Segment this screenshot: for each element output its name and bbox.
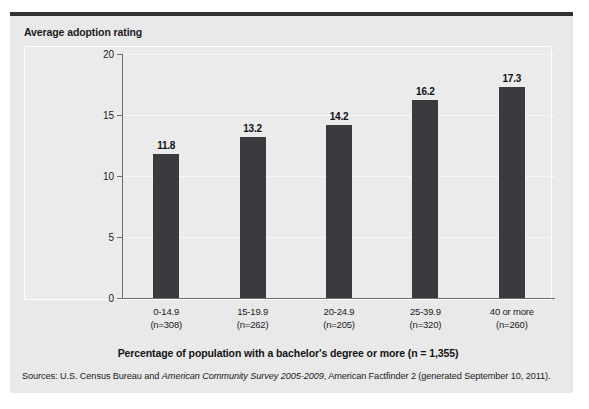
category-sample-size: (n=260) <box>457 318 567 331</box>
gridline <box>124 54 555 55</box>
bar-value-label: 11.8 <box>136 140 196 151</box>
bar[interactable] <box>499 87 525 298</box>
category-range: 40 or more <box>457 305 567 318</box>
source-prefix: Sources: U.S. Census Bureau and <box>22 371 162 381</box>
x-axis-title: Percentage of population with a bachelor… <box>24 347 552 359</box>
x-axis-line <box>122 298 555 299</box>
bar-value-label: 17.3 <box>482 73 542 84</box>
bar-value-label: 14.2 <box>309 111 369 122</box>
y-axis-tick-label: 0 <box>10 293 114 304</box>
x-axis-category-label: 40 or more(n=260) <box>457 305 567 331</box>
y-axis-line <box>122 54 123 299</box>
y-axis-tick-label: 15 <box>10 110 114 121</box>
bar[interactable] <box>240 137 266 298</box>
y-axis-tick-label: 5 <box>10 232 114 243</box>
bar[interactable] <box>153 154 179 298</box>
bar[interactable] <box>326 125 352 298</box>
source-note: Sources: U.S. Census Bureau and American… <box>22 371 550 381</box>
figure-top-rule <box>10 12 573 16</box>
bar-value-label: 16.2 <box>395 86 455 97</box>
bar-value-label: 13.2 <box>223 123 283 134</box>
y-axis-tick-label: 20 <box>10 49 114 60</box>
y-axis-title: Average adoption rating <box>24 26 142 38</box>
source-italic-title: American Community Survey 2005-2009 <box>162 371 324 381</box>
bar[interactable] <box>412 100 438 298</box>
y-axis-tick-label: 10 <box>10 171 114 182</box>
source-suffix: , American Factfinder 2 (generated Septe… <box>324 371 551 381</box>
